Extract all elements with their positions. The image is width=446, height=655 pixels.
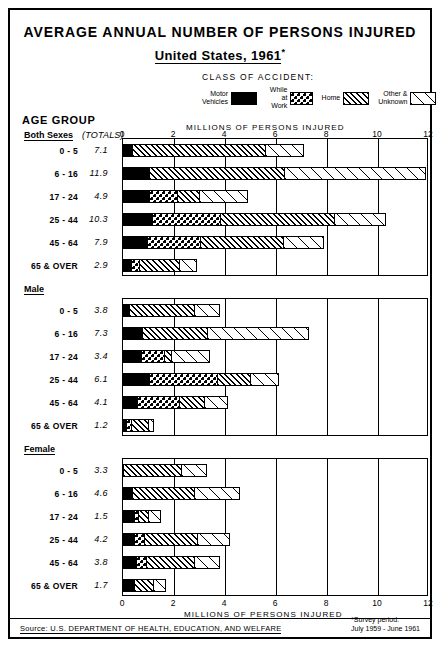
segment-work	[136, 557, 146, 568]
legend-heading: CLASS OF ACCIDENT:	[202, 72, 432, 82]
gridline-10	[378, 139, 379, 275]
row-label-65-over: 65 & OVER	[18, 581, 78, 591]
segment-work	[131, 260, 138, 271]
segment-work	[149, 374, 217, 385]
row-label-65-over: 65 & OVER	[18, 421, 78, 431]
segment-home	[177, 191, 200, 202]
panel-plot-region	[122, 298, 428, 436]
row-label-25-44: 25 - 44	[18, 535, 78, 545]
asterisk-marker: *	[281, 47, 285, 57]
legend-label-other: Other & Unknown	[378, 90, 407, 106]
segment-other	[194, 557, 219, 568]
segment-motor	[124, 351, 141, 362]
gridline-4	[225, 299, 226, 435]
x-axis-tick-bottom-10: 10	[367, 598, 387, 608]
bar-male-65-over	[123, 419, 154, 432]
segment-home	[220, 214, 334, 225]
row-label-25-44: 25 - 44	[18, 375, 78, 385]
bar-male-17-24	[123, 350, 210, 363]
gridline-8	[327, 299, 328, 435]
row-total-value: 11.9	[82, 168, 108, 178]
x-axis-tick-bottom-0: 0	[112, 598, 132, 608]
row-label-45-64: 45 - 64	[18, 558, 78, 568]
row-total-value: 3.3	[82, 465, 108, 475]
bar-female-0-5	[123, 464, 207, 477]
row-label-17-24: 17 - 24	[18, 352, 78, 362]
section-header-female: Female	[24, 444, 55, 454]
row-label-0-5: 0 - 5	[18, 146, 78, 156]
segment-other	[148, 420, 153, 431]
gridline-6	[276, 139, 277, 275]
segment-home	[142, 328, 208, 339]
panel-plot-region	[122, 138, 428, 276]
segment-other	[197, 534, 230, 545]
section-header-female-text: Female	[24, 444, 55, 455]
row-label-6-16: 6 - 16	[18, 329, 78, 339]
segment-home	[129, 305, 194, 316]
segment-home	[149, 168, 283, 179]
bar-both-sexes-6-16	[123, 167, 426, 180]
segment-home	[144, 534, 197, 545]
bar-male-45-64	[123, 396, 228, 409]
segment-work	[152, 214, 220, 225]
row-total-value: 1.5	[82, 511, 108, 521]
row-total-value: 6.1	[82, 374, 108, 384]
row-total-value: 1.7	[82, 580, 108, 590]
legend-item-motor: Motor Vehicles	[202, 90, 257, 106]
row-total-value: 4.6	[82, 488, 108, 498]
segment-other	[199, 191, 247, 202]
segment-other	[334, 214, 385, 225]
row-total-value: 4.9	[82, 191, 108, 201]
row-label-0-5: 0 - 5	[18, 306, 78, 316]
row-label-65-over: 65 & OVER	[18, 261, 78, 271]
segment-work	[149, 191, 177, 202]
segment-home	[132, 488, 195, 499]
gridline-8	[327, 459, 328, 595]
segment-motor	[124, 168, 149, 179]
segment-work	[147, 237, 200, 248]
segment-home	[132, 145, 266, 156]
row-label-6-16: 6 - 16	[18, 489, 78, 499]
legend-label-motor: Motor Vehicles	[202, 90, 228, 106]
row-total-value: 7.1	[82, 145, 108, 155]
row-total-value: 10.3	[82, 214, 108, 224]
row-total-value: 3.8	[82, 305, 108, 315]
row-label-17-24: 17 - 24	[18, 192, 78, 202]
bar-male-6-16	[123, 327, 309, 340]
age-group-header: AGE GROUP	[22, 114, 96, 126]
bar-male-25-44	[123, 373, 279, 386]
bar-female-25-44	[123, 533, 230, 546]
segment-motor	[124, 557, 136, 568]
bar-female-65-over	[123, 579, 166, 592]
row-total-value: 7.9	[82, 237, 108, 247]
bar-both-sexes-0-5	[123, 144, 304, 157]
gridline-2	[174, 299, 175, 435]
x-axis-tick-bottom-12: 12	[418, 598, 438, 608]
subtitle-year: 1961	[251, 48, 282, 63]
bar-both-sexes-17-24	[123, 190, 248, 203]
segment-home	[124, 465, 181, 476]
chart-panel-both-sexes	[122, 138, 428, 276]
bar-male-0-5	[123, 304, 220, 317]
segment-home	[138, 511, 148, 522]
x-axis-tick-bottom-2: 2	[163, 598, 183, 608]
source-note: Source: U.S. DEPARTMENT OF HEALTH, EDUCA…	[20, 624, 281, 633]
row-total-value: 4.1	[82, 397, 108, 407]
segment-other	[171, 351, 208, 362]
segment-motor	[124, 397, 137, 408]
x-axis-tick-top-10: 10	[367, 129, 387, 139]
segment-motor	[124, 374, 149, 385]
row-label-45-64: 45 - 64	[18, 398, 78, 408]
legend-items: Motor VehiclesWhile at WorkHomeOther & U…	[202, 86, 432, 111]
segment-home	[131, 420, 148, 431]
segment-motor	[124, 191, 149, 202]
bar-female-6-16	[123, 487, 240, 500]
row-total-value: 7.3	[82, 328, 108, 338]
row-total-value: 3.8	[82, 557, 108, 567]
row-total-value: 2.9	[82, 260, 108, 270]
row-label-45-64: 45 - 64	[18, 238, 78, 248]
segment-other	[181, 465, 206, 476]
x-axis-tick-top-2: 2	[163, 129, 183, 139]
segment-other	[283, 237, 323, 248]
segment-motor	[124, 511, 134, 522]
